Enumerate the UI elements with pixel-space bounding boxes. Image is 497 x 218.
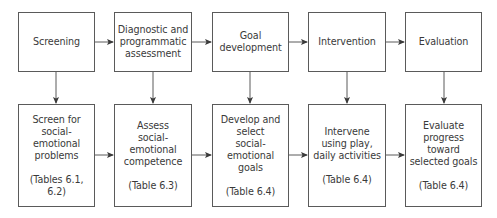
detail-text: toward <box>427 144 460 156</box>
stage-box-screening: Screening <box>18 12 95 72</box>
detail-text: Assess <box>137 120 169 132</box>
detail-text: emotional <box>129 144 176 156</box>
detail-text: Evaluate <box>423 120 464 132</box>
stage-label: Goal <box>240 30 261 42</box>
table-reference: (Table 6.4) <box>322 174 372 186</box>
detail-text: social- <box>235 138 265 150</box>
detail-text: Screen for <box>32 114 80 126</box>
detail-box-goal-development: Develop and select social- emotional goa… <box>212 104 289 207</box>
table-reference: (Table 6.3) <box>128 180 178 192</box>
table-reference: (Table 6.4) <box>226 186 276 198</box>
stage-box-assessment: Diagnostic and programmatic assessment <box>114 12 192 72</box>
detail-box-evaluation: Evaluate progress toward selected goals … <box>405 104 482 207</box>
detail-text: select <box>237 126 265 138</box>
table-reference: (Table 6.4) <box>419 180 469 192</box>
detail-text: emotional <box>227 150 274 162</box>
stage-label: programmatic <box>120 36 187 48</box>
stage-box-intervention: Intervention <box>308 12 386 72</box>
detail-text: Intervene <box>324 126 369 138</box>
stage-label: Screening <box>33 36 80 48</box>
detail-text: selected goals <box>410 156 478 168</box>
detail-text: social- <box>138 132 168 144</box>
stage-box-evaluation: Evaluation <box>405 12 482 72</box>
table-reference: (Tables 6.1, <box>30 174 84 186</box>
stage-label: assessment <box>125 48 181 60</box>
detail-text: daily activities <box>313 150 381 162</box>
detail-text: using play, <box>321 138 372 150</box>
detail-text: goals <box>238 162 263 174</box>
stage-label: Intervention <box>318 36 375 48</box>
detail-text: social- <box>41 126 71 138</box>
detail-text: Develop and <box>221 114 281 126</box>
stage-label: development <box>219 42 281 54</box>
table-reference: 6.2) <box>47 186 66 198</box>
stage-label: Diagnostic and <box>118 24 188 36</box>
detail-text: progress <box>423 132 464 144</box>
stage-label: Evaluation <box>419 36 469 48</box>
detail-text: emotional <box>33 138 80 150</box>
detail-box-intervention: Intervene using play, daily activities (… <box>308 104 386 207</box>
detail-box-screening: Screen for social- emotional problems (T… <box>18 104 95 207</box>
detail-box-assessment: Assess social- emotional competence (Tab… <box>114 104 192 207</box>
detail-text: competence <box>124 156 182 168</box>
detail-text: problems <box>35 150 79 162</box>
stage-box-goal-development: Goal development <box>212 12 289 72</box>
